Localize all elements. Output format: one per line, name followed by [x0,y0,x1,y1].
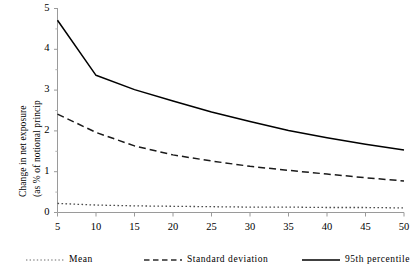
y-tick-label: 4 [36,43,50,54]
x-tick-label: 45 [356,222,376,233]
plot-area [0,0,418,275]
x-tick-label: 50 [394,222,414,233]
legend-item-mean: Mean [26,252,93,266]
y-tick-label: 3 [36,84,50,95]
data-series-layer [58,20,405,208]
series-line-mean [58,203,405,207]
x-tick-label: 25 [202,222,222,233]
y-tick-label: 2 [36,125,50,136]
chart-legend: Mean Standard deviation 95th percentile [0,252,418,272]
x-tick-label: 10 [86,222,106,233]
y-axis-ticks [54,9,58,213]
x-tick-label: 15 [125,222,145,233]
chart-figure: Change in net exposure (as % of notional… [0,0,418,275]
legend-swatch-solid-icon [302,254,340,264]
series-line-95th-percentile [58,20,405,150]
x-axis-ticks [58,213,405,217]
y-tick-label: 1 [36,166,50,177]
legend-item-standard-deviation: Standard deviation [144,252,268,266]
x-tick-label: 5 [48,222,68,233]
series-line-standard-deviation [58,114,405,181]
legend-label-standard-deviation: Standard deviation [187,254,268,264]
axis-lines [58,8,405,213]
y-tick-label: 0 [36,207,50,218]
legend-label-95th-percentile: 95th percentile [345,254,410,264]
x-tick-label: 40 [317,222,337,233]
legend-swatch-dotted-icon [26,254,64,264]
x-tick-label: 35 [279,222,299,233]
legend-label-mean: Mean [69,254,93,264]
y-tick-label: 5 [36,3,50,14]
x-tick-label: 30 [240,222,260,233]
x-tick-label: 20 [163,222,183,233]
legend-item-95th-percentile: 95th percentile [302,252,410,266]
legend-swatch-dashed-icon [144,254,182,264]
